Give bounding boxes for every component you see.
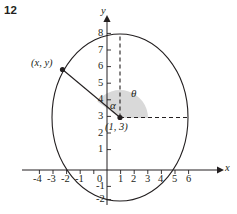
y-tick-label-2: 2: [98, 128, 103, 139]
x-tick-label-0: 0: [97, 174, 102, 185]
y-tick-label-6: 6: [98, 61, 103, 72]
angle-sector-shading: [97, 90, 148, 118]
xy-point-dot: [60, 67, 65, 72]
x-tick-label-neg3: -3: [47, 174, 56, 185]
y-axis-label: y: [101, 6, 106, 17]
x-tick-label-6: 6: [186, 174, 191, 185]
x-tick-label-neg1: -1: [75, 174, 84, 185]
x-axis-arrow-icon: [217, 166, 224, 173]
y-tick-label-5: 5: [98, 78, 103, 89]
x-tick-label-2: 2: [131, 174, 136, 185]
y-axis-ticks: [107, 33, 111, 199]
point-xy-label: (x, y): [31, 58, 53, 69]
x-tick-label-neg4: -4: [33, 174, 42, 185]
center-point-label: (1, 3): [105, 122, 128, 133]
center-point-dot: [117, 115, 122, 120]
y-tick-label-8: 8: [98, 28, 103, 39]
x-tick-label-neg2: -2: [61, 174, 70, 185]
y-tick-label-1: 1: [98, 144, 103, 155]
angle-alpha-label: α: [110, 100, 116, 111]
y-tick-label-4: 4: [98, 94, 103, 105]
figure-container: 12: [0, 0, 237, 214]
x-tick-label-4: 4: [158, 174, 163, 185]
y-tick-label-3: 3: [98, 111, 103, 122]
y-tick-label-7: 7: [98, 45, 103, 56]
x-tick-label-1: 1: [118, 174, 123, 185]
x-axis-label: x: [225, 163, 230, 174]
x-tick-label-5: 5: [172, 174, 177, 185]
x-tick-label-3: 3: [145, 174, 150, 185]
angle-theta-label: θ: [131, 88, 136, 99]
y-tick-label-neg2: -2: [96, 194, 105, 205]
